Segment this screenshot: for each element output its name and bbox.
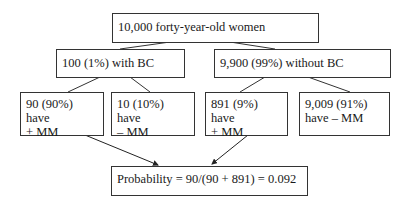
bc-minus-mm-line1: 10 (10%) have <box>117 97 190 125</box>
arrow-false-positive <box>212 135 248 164</box>
arrow-true-positive <box>85 135 158 165</box>
root-node-label: 10,000 forty-year-old women <box>118 20 265 34</box>
bc-minus-mm-line2: – MM <box>117 125 190 139</box>
probability-result-box: Probability = 90/(90 + 891) = 0.092 <box>111 166 308 196</box>
bc-plus-mm-node-box: 90 (90%) have + MM <box>20 92 104 136</box>
without-bc-node-box: 9,900 (99%) without BC <box>214 49 391 78</box>
bc-minus-mm-node-box: 10 (10%) have – MM <box>111 92 195 136</box>
with-bc-node-box: 100 (1%) with BC <box>56 49 185 78</box>
probability-result-label: Probability = 90/(90 + 891) = 0.092 <box>117 172 296 186</box>
nobc-plus-mm-line2: + MM <box>211 125 283 139</box>
bc-plus-mm-line2: + MM <box>26 125 99 139</box>
line-withbc-to-plusmm <box>68 77 100 92</box>
with-bc-label: 100 (1%) with BC <box>62 56 154 70</box>
nobc-minus-mm-line2: have – MM <box>305 111 385 125</box>
line-withbc-to-minusmm <box>130 77 150 92</box>
nobc-minus-mm-line1: 9,009 (91%) <box>305 97 385 111</box>
nobc-plus-mm-line1: 891 (9%) have <box>211 97 283 125</box>
without-bc-label: 9,900 (99%) without BC <box>220 56 344 70</box>
line-root-to-withoutbc <box>230 42 275 49</box>
bc-plus-mm-line1: 90 (90%) have <box>26 97 99 125</box>
root-node-box: 10,000 forty-year-old women <box>112 13 319 43</box>
nobc-plus-mm-node-box: 891 (9%) have + MM <box>205 92 288 136</box>
line-withoutbc-to-plusmm <box>240 77 265 92</box>
nobc-minus-mm-node-box: 9,009 (91%) have – MM <box>299 92 390 136</box>
line-root-to-withbc <box>120 42 170 49</box>
line-withoutbc-to-minusmm <box>308 77 350 92</box>
